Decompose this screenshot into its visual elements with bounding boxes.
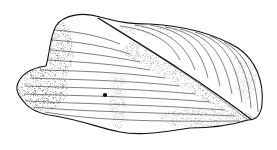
spot-mark — [103, 93, 107, 97]
shell-drawing — [0, 0, 277, 150]
shell-illustration — [0, 0, 277, 150]
